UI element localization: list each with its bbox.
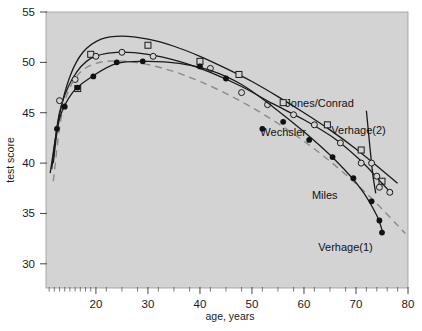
- series-label-wechsler: Wechsler: [260, 126, 306, 138]
- data-point-filled-circle: [54, 126, 60, 132]
- data-point-filled-circle: [197, 63, 203, 69]
- data-point-open-square: [145, 42, 151, 48]
- data-point-filled-circle: [369, 198, 375, 204]
- series-label-verhage-1-: Verhage(1): [318, 241, 372, 253]
- x-tick-label: 70: [350, 298, 363, 310]
- x-tick-label: 60: [298, 298, 311, 310]
- data-point-filled-circle: [280, 119, 286, 125]
- data-point-open-circle: [57, 98, 63, 104]
- data-point-open-circle: [150, 53, 156, 59]
- data-point-open-circle: [93, 53, 99, 59]
- data-point-open-circle: [291, 112, 297, 118]
- y-axis-title: test score: [4, 137, 16, 183]
- chart-container: Jones/ConradWechslerVerhage(2)MilesVerha…: [0, 0, 422, 331]
- series-label-jones-conrad: Jones/Conrad: [285, 97, 354, 109]
- data-point-open-circle: [358, 160, 364, 166]
- data-point-open-square: [236, 71, 242, 77]
- data-point-open-square: [358, 147, 364, 153]
- x-axis-title: age, years: [205, 310, 254, 322]
- data-point-filled-circle: [223, 76, 229, 82]
- x-tick-label: 80: [402, 298, 415, 310]
- x-tick-label: 50: [246, 298, 259, 310]
- data-point-filled-circle: [379, 230, 385, 236]
- data-point-open-circle: [369, 160, 375, 166]
- data-point-filled-circle: [350, 175, 356, 181]
- data-point-filled-circle: [376, 218, 382, 224]
- data-point-open-circle: [311, 122, 317, 128]
- series-label-verhage-2-: Verhage(2): [331, 124, 385, 136]
- data-point-open-circle: [374, 173, 380, 179]
- x-tick-label: 40: [194, 298, 207, 310]
- y-tick-label: 50: [22, 56, 35, 68]
- y-tick-label: 55: [22, 6, 35, 18]
- y-tick-label: 35: [22, 207, 35, 219]
- data-point-open-circle: [119, 49, 125, 55]
- data-point-filled-circle: [140, 58, 146, 64]
- data-point-open-circle: [387, 189, 393, 195]
- x-tick-label: 30: [142, 298, 155, 310]
- data-point-open-square: [324, 122, 330, 128]
- data-point-filled-circle: [306, 137, 312, 143]
- x-tick-label: 20: [90, 298, 103, 310]
- data-point-filled-circle: [62, 104, 68, 110]
- y-tick-label: 40: [22, 157, 35, 169]
- y-tick-label: 45: [22, 107, 35, 119]
- series-label-miles: Miles: [312, 189, 338, 201]
- scatter-line-chart: Jones/ConradWechslerVerhage(2)MilesVerha…: [0, 0, 422, 331]
- data-point-filled-circle: [90, 74, 96, 80]
- data-point-open-square: [197, 58, 203, 64]
- data-point-filled-circle: [330, 154, 336, 160]
- data-point-open-circle: [337, 140, 343, 146]
- data-point-filled-circle: [114, 59, 120, 65]
- data-point-open-circle: [376, 184, 382, 190]
- y-tick-label: 30: [22, 258, 35, 270]
- data-point-filled-circle: [75, 85, 81, 91]
- data-point-open-circle: [239, 90, 245, 96]
